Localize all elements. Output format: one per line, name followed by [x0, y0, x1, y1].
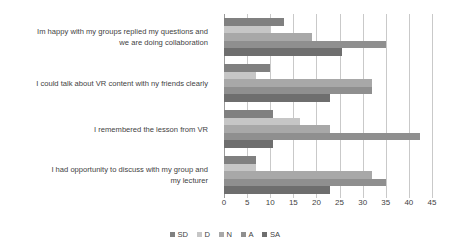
x-tick-label: 35	[381, 198, 390, 207]
legend-item-sa[interactable]: SA	[262, 230, 280, 239]
x-tick-label: 40	[404, 198, 413, 207]
x-tick-label: 0	[222, 198, 226, 207]
x-tick-label: 10	[266, 198, 275, 207]
bar-row	[224, 48, 432, 56]
bar-sd[interactable]	[224, 156, 256, 164]
bar-sd[interactable]	[224, 110, 273, 118]
bar-groups	[224, 14, 432, 198]
bar-chart: Im happy with my groups replied my quest…	[0, 0, 450, 251]
bar-d[interactable]	[224, 26, 270, 34]
bar-row	[224, 33, 432, 41]
bar-sa[interactable]	[224, 186, 330, 194]
legend-swatch-icon	[170, 232, 175, 237]
bar-row	[224, 156, 432, 164]
bar-group	[224, 106, 432, 152]
bar-n[interactable]	[224, 33, 312, 41]
legend-label: A	[248, 230, 253, 239]
category-label: I remembered the lesson from VR	[0, 106, 216, 152]
bar-row	[224, 18, 432, 26]
category-label-line: we are doing collaboration	[37, 37, 208, 48]
bar-row	[224, 79, 432, 87]
bar-group	[224, 152, 432, 198]
bar-n[interactable]	[224, 171, 372, 179]
category-label-line: I could talk about VR content with ny fr…	[36, 78, 208, 89]
legend-item-a[interactable]: A	[241, 230, 254, 239]
category-label-line: my lecturer	[51, 175, 208, 186]
value-axis-ticks: 051015202530354045	[224, 198, 432, 212]
x-tick-label: 30	[358, 198, 367, 207]
x-tick-label: 20	[312, 198, 321, 207]
gridline-45	[432, 14, 433, 198]
bar-n[interactable]	[224, 125, 330, 133]
x-tick-label: 15	[289, 198, 298, 207]
bar-row	[224, 72, 432, 80]
bar-a[interactable]	[224, 41, 386, 49]
bar-n[interactable]	[224, 79, 372, 87]
bar-a[interactable]	[224, 179, 386, 187]
bar-d[interactable]	[224, 72, 256, 80]
bar-row	[224, 87, 432, 95]
bar-row	[224, 133, 432, 141]
bar-row	[224, 110, 432, 118]
category-label-line: Im happy with my groups replied my quest…	[37, 26, 208, 37]
category-axis-labels: Im happy with my groups replied my quest…	[0, 14, 216, 198]
bar-row	[224, 140, 432, 148]
bar-group	[224, 60, 432, 106]
category-label-line: I remembered the lesson from VR	[94, 124, 208, 135]
legend-label: N	[226, 230, 231, 239]
bar-row	[224, 64, 432, 72]
bar-row	[224, 179, 432, 187]
bar-row	[224, 164, 432, 172]
bar-row	[224, 26, 432, 34]
bar-row	[224, 186, 432, 194]
legend-label: D	[204, 230, 209, 239]
category-label-line: I had opportunity to discuss with my gro…	[51, 164, 208, 175]
legend-item-n[interactable]: N	[219, 230, 232, 239]
bar-sa[interactable]	[224, 48, 342, 56]
bar-row	[224, 125, 432, 133]
bar-a[interactable]	[224, 133, 420, 141]
x-tick-label: 25	[335, 198, 344, 207]
x-tick-label: 45	[428, 198, 437, 207]
legend-swatch-icon	[197, 232, 202, 237]
bar-row	[224, 118, 432, 126]
legend-swatch-icon	[241, 232, 246, 237]
legend-label: SD	[177, 230, 188, 239]
bar-sd[interactable]	[224, 64, 270, 72]
chart-legend: SDDNASA	[0, 230, 450, 239]
plot-area	[224, 14, 432, 198]
category-label: I could talk about VR content with ny fr…	[0, 60, 216, 106]
legend-swatch-icon	[262, 232, 267, 237]
bar-sa[interactable]	[224, 140, 273, 148]
legend-swatch-icon	[219, 232, 224, 237]
category-label: I had opportunity to discuss with my gro…	[0, 152, 216, 198]
category-label: Im happy with my groups replied my quest…	[0, 14, 216, 60]
bar-d[interactable]	[224, 164, 256, 172]
bar-row	[224, 94, 432, 102]
legend-item-sd[interactable]: SD	[170, 230, 188, 239]
bar-d[interactable]	[224, 118, 300, 126]
bar-row	[224, 41, 432, 49]
bar-sd[interactable]	[224, 18, 284, 26]
x-tick-label: 5	[245, 198, 249, 207]
legend-item-d[interactable]: D	[197, 230, 210, 239]
bar-group	[224, 14, 432, 60]
bar-sa[interactable]	[224, 94, 330, 102]
bar-a[interactable]	[224, 87, 372, 95]
bar-row	[224, 171, 432, 179]
legend-label: SA	[270, 230, 280, 239]
